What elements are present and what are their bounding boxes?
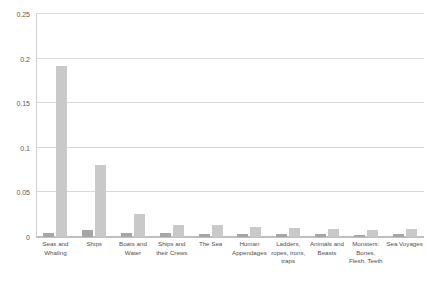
bar-group bbox=[269, 14, 308, 237]
x-tick-label: Ladders, ropes, irons, traps bbox=[269, 240, 308, 286]
y-tick-label: 0.25 bbox=[0, 11, 30, 18]
x-tick-label: Monsters: Bones, Flesh, Teeth bbox=[346, 240, 385, 286]
bar bbox=[199, 234, 210, 237]
bar bbox=[212, 225, 223, 237]
bar-group bbox=[36, 14, 75, 237]
x-tick-label: Boats and Water bbox=[114, 240, 153, 286]
bar bbox=[328, 229, 339, 237]
bar-group bbox=[308, 14, 347, 237]
bar-group bbox=[191, 14, 230, 237]
y-tick-label: 0.05 bbox=[0, 189, 30, 196]
bar bbox=[95, 165, 106, 237]
bar bbox=[276, 234, 287, 237]
bar bbox=[56, 66, 67, 237]
bar bbox=[121, 233, 132, 237]
x-tick-label: Animals and Beasts bbox=[308, 240, 347, 286]
bar-groups bbox=[36, 14, 424, 237]
bar-chart: 00.050.10.150.20.25 Seas and WhalingShip… bbox=[0, 0, 431, 288]
x-tick-label: Human Appendages bbox=[230, 240, 269, 286]
y-tick-label: 0.2 bbox=[0, 55, 30, 62]
x-tick-label: Sea Voyages bbox=[385, 240, 424, 286]
bar bbox=[354, 235, 365, 237]
bar bbox=[160, 233, 171, 237]
bar bbox=[315, 234, 326, 237]
x-tick-label: The Sea bbox=[191, 240, 230, 286]
bar-group bbox=[230, 14, 269, 237]
bar-group bbox=[114, 14, 153, 237]
bar bbox=[367, 230, 378, 237]
x-tick-label: Seas and Whaling bbox=[36, 240, 75, 286]
bar bbox=[289, 228, 300, 237]
y-tick-label: 0 bbox=[0, 234, 30, 241]
bar-group bbox=[346, 14, 385, 237]
y-axis-tick-labels: 00.050.10.150.20.25 bbox=[0, 0, 32, 288]
x-axis-line bbox=[36, 237, 424, 238]
bar-group bbox=[152, 14, 191, 237]
bar-group bbox=[385, 14, 424, 237]
y-tick-label: 0.1 bbox=[0, 144, 30, 151]
bar bbox=[406, 229, 417, 237]
x-axis-category-labels: Seas and WhalingShipsBoats and WaterShip… bbox=[36, 240, 424, 286]
bar bbox=[82, 230, 93, 237]
y-tick-label: 0.15 bbox=[0, 100, 30, 107]
bar bbox=[250, 227, 261, 237]
bar bbox=[237, 234, 248, 237]
bar bbox=[134, 214, 145, 237]
bar bbox=[393, 234, 404, 237]
x-tick-label: Ships and their Crews bbox=[152, 240, 191, 286]
x-tick-label: Ships bbox=[75, 240, 114, 286]
bar-group bbox=[75, 14, 114, 237]
bar bbox=[43, 233, 54, 237]
bar bbox=[173, 225, 184, 237]
